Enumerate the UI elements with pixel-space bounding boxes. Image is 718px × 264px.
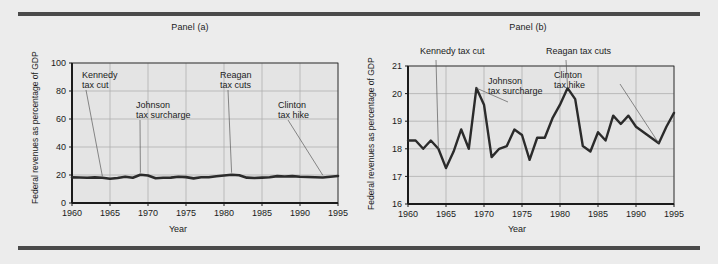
- y-tick-label: 18: [392, 144, 402, 154]
- x-tick-label: 1965: [100, 208, 120, 218]
- panel-b: Panel (b) Federal revenues as percentage…: [358, 18, 698, 242]
- panel-a: Panel (a) Federal revenues as percentage…: [20, 18, 360, 242]
- x-tick-label: 1960: [62, 208, 82, 218]
- x-tick-label: 1990: [626, 209, 646, 219]
- annotation-label: Reagan: [220, 70, 252, 80]
- annotation-label: tax cuts: [220, 80, 252, 90]
- annotation-label: Kennedy tax cut: [420, 46, 485, 56]
- x-tick-label: 1980: [214, 208, 234, 218]
- x-tick-label: 1985: [588, 209, 608, 219]
- annotation-label: Clinton: [278, 100, 306, 110]
- annotation-label: Kennedy: [82, 70, 118, 80]
- x-tick-label: 1975: [512, 209, 532, 219]
- x-tick-label: 1985: [252, 208, 272, 218]
- panel-b-plot: 1617181920211960196519701975198019851990…: [358, 18, 698, 242]
- y-tick-label: 80: [56, 86, 66, 96]
- y-tick-label: 20: [56, 170, 66, 180]
- y-tick-label: 16: [392, 199, 402, 209]
- x-tick-label: 1990: [290, 208, 310, 218]
- y-tick-label: 0: [61, 198, 66, 208]
- x-tick-label: 1960: [398, 209, 418, 219]
- x-tick-label: 1975: [176, 208, 196, 218]
- x-tick-label: 1970: [474, 209, 494, 219]
- bottom-rule: [18, 246, 700, 250]
- top-rule: [18, 12, 700, 16]
- annotation-label: tax surcharge: [488, 86, 543, 96]
- x-tick-label: 1970: [138, 208, 158, 218]
- y-tick-label: 19: [392, 116, 402, 126]
- x-tick-label: 1995: [328, 208, 348, 218]
- x-tick-label: 1980: [550, 209, 570, 219]
- panel-a-plot: 0204060801001960196519701975198019851990…: [20, 18, 360, 242]
- annotation-label: Johnson: [488, 76, 522, 86]
- annotation-label: tax hike: [554, 80, 585, 90]
- y-tick-label: 17: [392, 172, 402, 182]
- y-tick-label: 60: [56, 114, 66, 124]
- y-tick-label: 100: [51, 58, 66, 68]
- annotation-label: Johnson: [136, 100, 170, 110]
- plot-background: [72, 63, 338, 203]
- x-tick-label: 1965: [436, 209, 456, 219]
- annotation-label: Reagan tax cuts: [546, 46, 612, 56]
- y-tick-label: 21: [392, 61, 402, 71]
- annotation-label: Clinton: [554, 70, 582, 80]
- y-tick-label: 20: [392, 89, 402, 99]
- y-tick-label: 40: [56, 142, 66, 152]
- annotation-label: tax surcharge: [136, 110, 191, 120]
- x-tick-label: 1995: [664, 209, 684, 219]
- annotation-label: tax hike: [278, 110, 309, 120]
- annotation-label: tax cut: [82, 80, 109, 90]
- figure-container: Panel (a) Federal revenues as percentage…: [0, 0, 718, 264]
